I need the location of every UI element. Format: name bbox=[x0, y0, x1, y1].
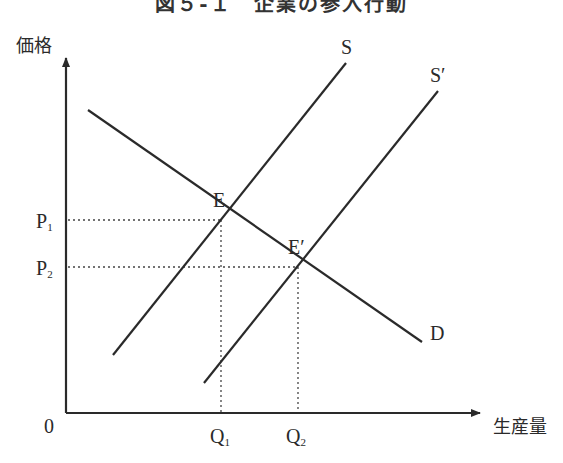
equilibrium-shifted-label: E′ bbox=[288, 236, 305, 258]
p2-label: P2 bbox=[36, 257, 53, 280]
y-axis-label: 価格 bbox=[16, 35, 52, 56]
demand-curve bbox=[88, 110, 422, 342]
supply-shifted-curve bbox=[204, 91, 438, 383]
demand-label: D bbox=[430, 322, 444, 344]
equilibrium-label: E bbox=[213, 189, 225, 211]
q2-label: Q2 bbox=[286, 425, 306, 448]
origin-label: 0 bbox=[44, 415, 54, 437]
q1-label: Q1 bbox=[210, 425, 230, 448]
supply-curve bbox=[113, 63, 346, 355]
supply-demand-diagram: S S′ D E E′ 価格 P1 P2 0 Q1 Q2 生産量 bbox=[0, 0, 563, 463]
supply-label: S bbox=[341, 36, 352, 58]
p1-label: P1 bbox=[36, 210, 53, 233]
supply-shifted-label: S′ bbox=[430, 64, 446, 86]
x-axis-label: 生産量 bbox=[493, 416, 547, 437]
